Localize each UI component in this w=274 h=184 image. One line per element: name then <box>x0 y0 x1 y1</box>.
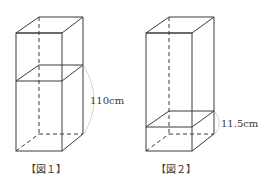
fig1-caption: 【図１】 <box>26 164 66 175</box>
fig2-level-right-depth <box>192 111 214 127</box>
fig2-caption: 【図２】 <box>156 164 196 175</box>
fig2-level-left-depth <box>146 111 169 127</box>
fig1-dimension-label: 110cm <box>90 95 125 106</box>
figure-2: 11.5cm 【図２】 <box>146 17 259 175</box>
fig1-front-face <box>16 33 62 151</box>
fig2-dimension-label: 11.5cm <box>221 118 259 129</box>
fig2-bottom-right-depth <box>192 134 214 151</box>
fig1-top-face <box>16 17 83 33</box>
fig1-bottom-right-depth <box>62 134 83 151</box>
diagram-canvas: 110cm 【図１】 11.5cm 【図２】 <box>0 0 274 184</box>
fig2-hidden-bottom-left-depth <box>146 134 169 151</box>
fig2-front-face <box>146 33 192 151</box>
fig2-top-face <box>146 17 214 33</box>
fig1-hidden-bottom-left-depth <box>16 134 39 151</box>
fig1-level-right-depth <box>62 65 83 81</box>
figure-1: 110cm 【図１】 <box>16 17 125 175</box>
fig1-level-left-depth <box>16 65 39 81</box>
fig2-dimension-arc <box>215 112 220 134</box>
